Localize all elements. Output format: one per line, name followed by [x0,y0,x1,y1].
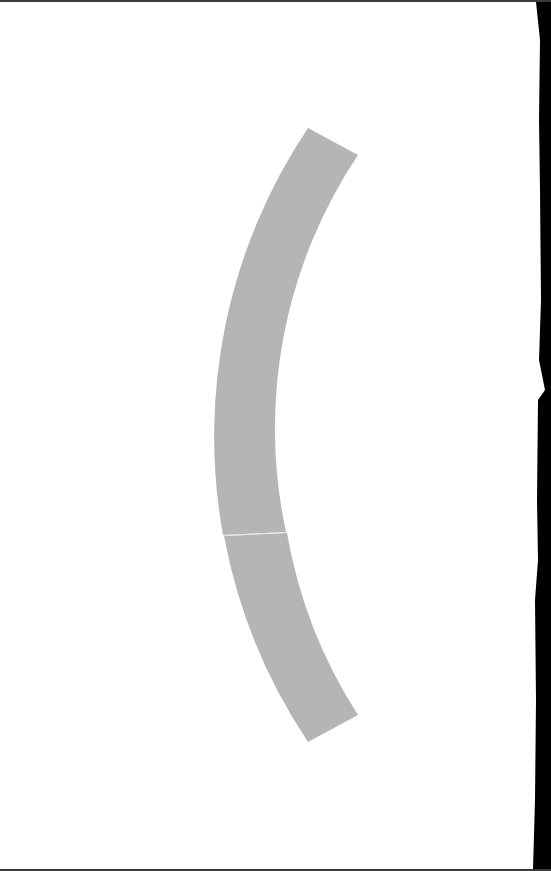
top-scan-edge [0,0,551,2]
page-canvas [0,0,551,871]
scanned-page [0,0,551,871]
